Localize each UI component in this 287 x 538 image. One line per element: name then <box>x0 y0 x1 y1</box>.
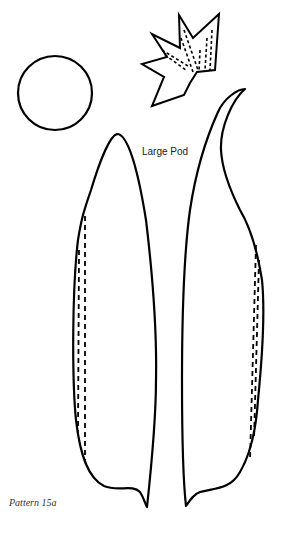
pattern-caption: Pattern 15a <box>9 497 57 508</box>
pod-label: Large Pod <box>142 146 188 157</box>
right-pod-piece <box>182 89 263 506</box>
circle-piece <box>18 56 92 130</box>
left-pod-piece <box>73 134 156 507</box>
star-piece <box>142 14 219 106</box>
pattern-canvas <box>0 0 287 538</box>
